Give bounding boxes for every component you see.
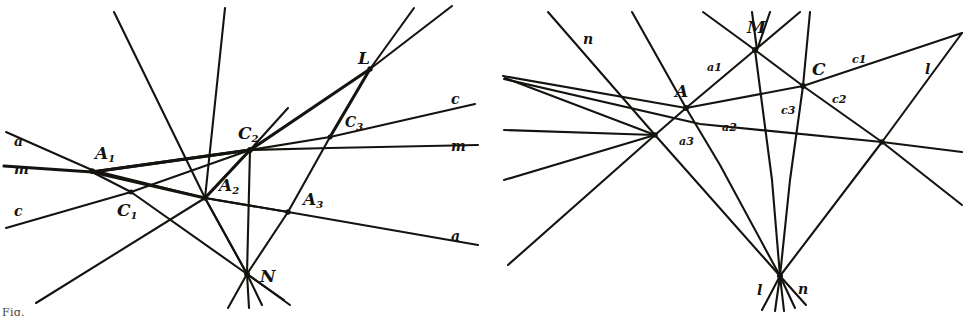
segment-Pright-apex	[780, 142, 882, 276]
label-line-c1: c1	[852, 53, 866, 66]
node-right-vertex	[879, 139, 884, 144]
label-line-m-left: m	[14, 161, 29, 177]
line-l-to-topright	[882, 33, 962, 142]
line-m-right-segment	[250, 145, 478, 150]
label-line-a-right: a	[451, 228, 460, 244]
ray-Pleft-southwest	[504, 135, 655, 180]
label-point-C: C	[812, 59, 826, 79]
label-line-a2: a2	[722, 121, 737, 134]
left-diagram: A1 A2 A3 C1 C2 C3 L N a m c c m	[4, 6, 478, 308]
label-line-m-right: m	[451, 138, 466, 154]
line-c-left-segment	[6, 192, 131, 228]
segment-A1-A2	[92, 172, 205, 198]
node-C3	[328, 135, 333, 140]
node-C2	[247, 147, 253, 153]
label-point-M: M	[746, 17, 767, 37]
segment-A1-C2-b	[92, 150, 250, 172]
label-point-A: A	[673, 81, 688, 101]
node-apex	[777, 273, 783, 279]
node-C1	[129, 190, 134, 195]
segment-A2-N	[205, 198, 247, 274]
ray-L-upright	[370, 6, 452, 69]
label-line-a3: a3	[679, 135, 694, 148]
label-point-C2: C2	[238, 123, 259, 144]
node-A1	[89, 168, 94, 173]
label-point-A3: A3	[301, 189, 323, 210]
ray-Pleft-downleft	[508, 135, 655, 265]
label-line-n-top: n	[583, 31, 593, 47]
label-line-c2: c2	[832, 93, 847, 106]
segment-M-A	[686, 50, 755, 108]
line-M-to-apex	[755, 50, 780, 276]
label-line-l-right: l	[925, 61, 930, 77]
line-a-right-segment	[92, 170, 478, 245]
node-C	[800, 83, 806, 89]
label-line-l-bottom: l	[757, 282, 762, 298]
label-point-C3: C3	[345, 114, 363, 132]
label-point-A1: A1	[93, 143, 115, 164]
ray-N-downleft	[228, 274, 247, 308]
label-line-n-bottom: n	[798, 281, 808, 297]
segment-M-C	[755, 50, 803, 86]
node-left-vertex	[652, 132, 657, 137]
node-N	[244, 271, 250, 277]
segment-C2-L	[250, 69, 370, 150]
line-edge-to-A	[503, 76, 686, 108]
label-point-N: N	[259, 266, 277, 286]
segment-A2-A3	[205, 198, 288, 212]
ray-L-upleft	[370, 8, 414, 69]
label-line-c3: c3	[781, 104, 796, 117]
node-M	[752, 47, 758, 53]
segment-C2-N	[247, 150, 250, 274]
line-n-upper	[548, 12, 655, 135]
label-point-A2: A2	[217, 175, 239, 196]
line-n-to-apex	[655, 135, 780, 276]
label-line-a1: a1	[707, 61, 722, 74]
line-top-to-A2	[114, 12, 205, 198]
label-line-a-left: a	[14, 133, 23, 149]
line-upper-to-A2-steep	[205, 8, 225, 198]
node-A3	[285, 209, 290, 214]
line-left-horizontal-to-Pleft	[505, 78, 655, 135]
segment-Pleft-A	[655, 108, 686, 135]
label-point-L: L	[357, 48, 370, 68]
figure-caption-partial: Fig.	[2, 307, 25, 316]
label-point-C1: C1	[117, 200, 138, 221]
line-top-through-C-to-apex	[780, 12, 810, 276]
node-A	[683, 105, 689, 111]
label-line-c-right: c	[451, 91, 460, 107]
right-diagram: M A C n l a1 a2 a3 c1 c2 c3 l n	[503, 12, 962, 311]
node-A2	[202, 195, 207, 200]
line-C-to-topright	[803, 33, 962, 86]
ray-Pleft-west	[504, 130, 655, 135]
label-line-c-left: c	[14, 203, 23, 219]
